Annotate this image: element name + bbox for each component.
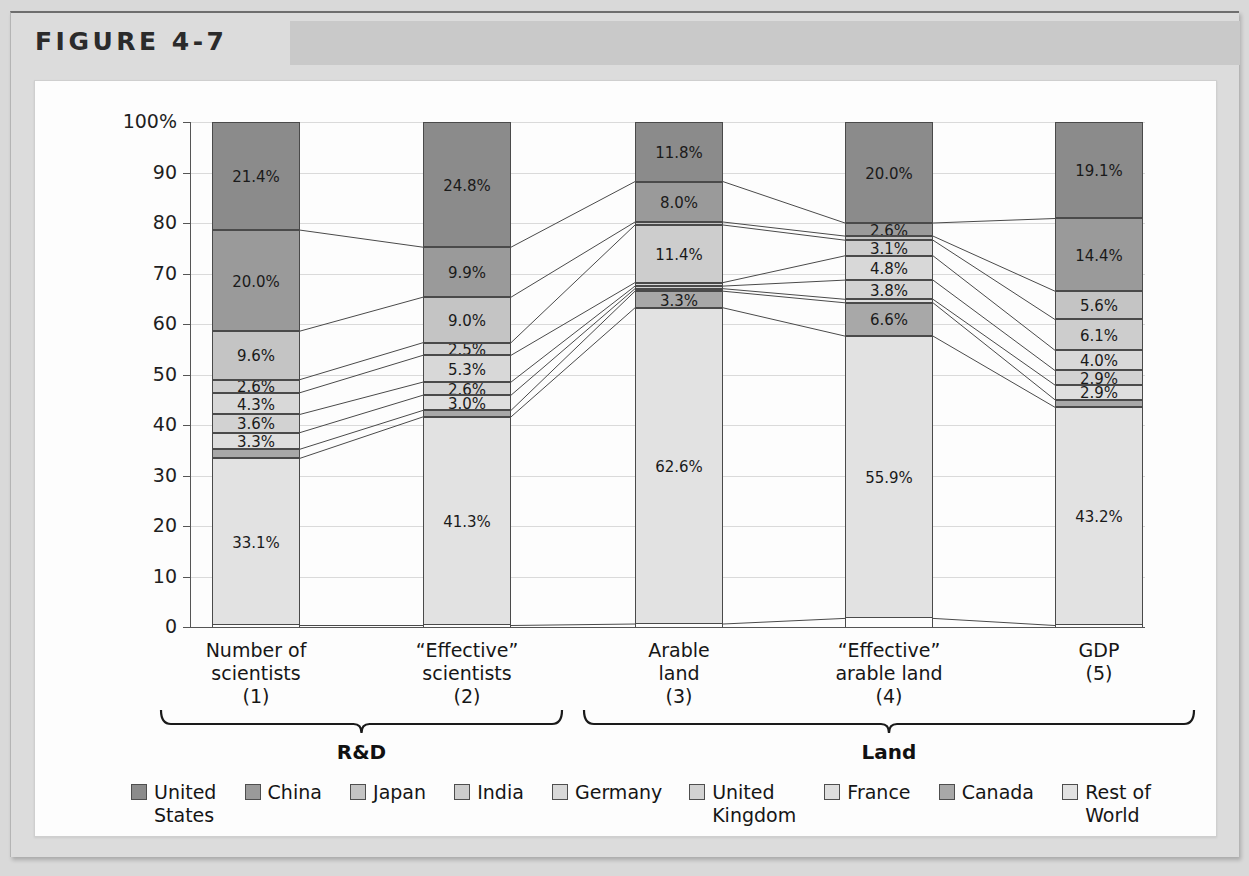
segment-value-label: 21.4% (213, 168, 299, 186)
segment-value-label: 41.3% (424, 513, 510, 531)
x-category-label-line: (3) (584, 685, 774, 708)
legend-swatch (689, 784, 705, 800)
legend-item[interactable]: Canada (939, 781, 1034, 804)
legend-label-line: France (847, 781, 910, 804)
segment-value-label: 5.6% (1056, 297, 1142, 315)
legend-label-line: United (712, 781, 796, 804)
legend-swatch (350, 784, 366, 800)
stacked-bar[interactable]: 21.4%20.0%9.6%2.6%4.3%3.6%3.3%33.1% (212, 122, 300, 627)
legend-item[interactable]: Rest ofWorld (1062, 781, 1151, 827)
x-category-label-line: scientists (161, 662, 351, 685)
legend-item[interactable]: France (824, 781, 910, 804)
bar-segment[interactable]: 3.6% (213, 414, 299, 432)
bar-segment[interactable]: 4.3% (213, 393, 299, 415)
bar-segment[interactable]: 9.9% (424, 247, 510, 297)
bar-segment[interactable]: 3.0% (424, 395, 510, 410)
stacked-bar[interactable]: 11.8%8.0%11.4%3.3%62.6% (635, 122, 723, 627)
bar-segment[interactable]: 2.6% (846, 223, 932, 236)
stacked-bar[interactable]: 20.0%2.6%3.1%4.8%3.8%6.6%55.9% (845, 122, 933, 627)
bar-segment[interactable]: 62.6% (636, 308, 722, 624)
legend-label: France (847, 781, 910, 804)
bar-segment[interactable]: 4.8% (846, 256, 932, 280)
y-tick-label: 80 (115, 213, 177, 232)
segment-value-label: 20.0% (846, 165, 932, 183)
bar-segment[interactable]: 2.9% (1056, 385, 1142, 400)
bar-segment[interactable]: 2.9% (1056, 370, 1142, 385)
bar-segment[interactable]: 19.1% (1056, 122, 1142, 218)
bar-segment[interactable]: 2.6% (213, 380, 299, 393)
segment-value-label: 9.9% (424, 264, 510, 282)
y-tick-mark (183, 122, 190, 123)
y-tick-mark (183, 526, 190, 527)
stacked-bar[interactable]: 19.1%14.4%5.6%6.1%4.0%2.9%2.9%43.2% (1055, 122, 1143, 627)
segment-value-label: 4.0% (1056, 352, 1142, 370)
plot-card: 100%9080706050403020100 21.4%20.0%9.6%2.… (34, 80, 1217, 837)
bar-segment[interactable] (213, 449, 299, 458)
y-tick-mark (183, 324, 190, 325)
group-label: R&D (161, 740, 562, 764)
bar-segment[interactable]: 3.3% (213, 433, 299, 450)
legend-item[interactable]: UnitedKingdom (689, 781, 796, 827)
x-category-label-line: scientists (372, 662, 562, 685)
segment-value-label: 9.0% (424, 312, 510, 330)
x-category-label-line: Number of (161, 639, 351, 662)
bar-segment[interactable]: 5.6% (1056, 291, 1142, 319)
segment-value-label: 4.8% (846, 260, 932, 278)
legend-item[interactable]: Germany (552, 781, 661, 804)
bar-segment[interactable]: 9.0% (424, 297, 510, 342)
segment-value-label: 6.1% (1056, 327, 1142, 345)
y-tick-label: 70 (115, 264, 177, 283)
bar-segment[interactable]: 9.6% (213, 331, 299, 379)
legend-item[interactable]: China (245, 781, 322, 804)
legend-item[interactable]: UnitedStates (131, 781, 216, 827)
bar-segment[interactable]: 3.8% (846, 280, 932, 299)
legend-swatch (552, 784, 568, 800)
legend-label-line: World (1085, 804, 1151, 827)
legend-label: Canada (962, 781, 1034, 804)
x-category-label-line: “Effective” (794, 639, 984, 662)
figure-header: FIGURE 4-7 (11, 13, 1240, 69)
bar-segment[interactable]: 43.2% (1056, 407, 1142, 625)
bar-segment[interactable]: 55.9% (846, 336, 932, 618)
bar-segment[interactable]: 14.4% (1056, 218, 1142, 291)
bar-segment[interactable]: 21.4% (213, 122, 299, 230)
segment-value-label: 3.6% (213, 415, 299, 432)
bar-segment[interactable]: 6.1% (1056, 319, 1142, 350)
legend-swatch (824, 784, 840, 800)
bar-segment[interactable]: 8.0% (636, 182, 722, 222)
bar-segment[interactable]: 2.6% (424, 382, 510, 395)
bar-segment[interactable]: 11.4% (636, 225, 722, 283)
x-category-label-line: (4) (794, 685, 984, 708)
bar-segment[interactable]: 24.8% (424, 122, 510, 247)
bar-segment[interactable]: 20.0% (846, 122, 932, 223)
y-tick-label: 30 (115, 466, 177, 485)
bar-segment[interactable]: 20.0% (213, 230, 299, 331)
legend-label: UnitedStates (154, 781, 216, 827)
legend-label-line: Japan (373, 781, 426, 804)
bar-segment[interactable]: 4.0% (1056, 350, 1142, 370)
bar-segment[interactable]: 41.3% (424, 417, 510, 626)
bar-segment[interactable]: 3.1% (846, 240, 932, 256)
bar-segment[interactable] (1056, 400, 1142, 408)
legend-label-line: Rest of (1085, 781, 1151, 804)
bar-segment[interactable]: 3.3% (636, 291, 722, 308)
bar-segment[interactable]: 5.3% (424, 355, 510, 382)
legend-item[interactable]: Japan (350, 781, 426, 804)
segment-value-label: 11.8% (636, 144, 722, 162)
y-tick-label: 50 (115, 365, 177, 384)
header-tint-band (290, 21, 1240, 65)
legend-item[interactable]: India (454, 781, 524, 804)
x-category-label-line: “Effective” (372, 639, 562, 662)
y-tick-label: 40 (115, 415, 177, 434)
legend-label: UnitedKingdom (712, 781, 796, 827)
bar-segment[interactable]: 6.6% (846, 303, 932, 336)
stacked-bar[interactable]: 24.8%9.9%9.0%2.5%5.3%2.6%3.0%41.3% (423, 122, 511, 627)
legend-label-line: India (477, 781, 524, 804)
bar-segment[interactable]: 2.5% (424, 343, 510, 356)
y-tick-mark (183, 375, 190, 376)
segment-value-label: 11.4% (636, 246, 722, 264)
segment-value-label: 24.8% (424, 177, 510, 195)
bar-segment[interactable]: 33.1% (213, 458, 299, 625)
bar-segment[interactable]: 11.8% (636, 122, 722, 182)
x-category-label-line: GDP (1004, 639, 1194, 662)
